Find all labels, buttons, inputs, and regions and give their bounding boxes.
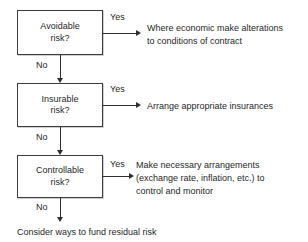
no-connector-insurable — [60, 127, 61, 150]
no-connector-avoidable — [60, 55, 61, 78]
no-arrowhead-controllable — [57, 217, 63, 222]
decision-box-avoidable[interactable]: Avoidable risk? — [17, 10, 103, 55]
no-connector-controllable — [60, 198, 61, 217]
decision-box-insurable-line2: risk? — [50, 105, 69, 116]
yes-label-controllable: Yes — [110, 159, 125, 169]
final-outcome-text: Consider ways to fund residual risk — [17, 227, 157, 237]
outcome-avoidable-line2: to conditions of contract — [147, 35, 283, 48]
outcome-avoidable-line1: Where economic make alterations — [147, 22, 283, 35]
yes-label-avoidable: Yes — [110, 12, 125, 22]
decision-box-controllable-line2: risk? — [50, 177, 69, 188]
decision-box-insurable-line1: Insurable — [41, 94, 78, 105]
flowchart-canvas: Avoidable risk? Yes Where economic make … — [0, 0, 308, 242]
outcome-controllable-line3: control and monitor — [136, 185, 265, 198]
outcome-controllable-line2: (exchange rate, inflation, etc.) to — [136, 172, 265, 185]
outcome-controllable: Make necessary arrangements (exchange ra… — [136, 159, 265, 198]
decision-box-controllable[interactable]: Controllable risk? — [17, 155, 103, 198]
yes-arrowhead-controllable — [129, 173, 134, 179]
outcome-controllable-line1: Make necessary arrangements — [136, 159, 265, 172]
decision-box-insurable[interactable]: Insurable risk? — [17, 83, 103, 127]
yes-connector-controllable — [103, 176, 129, 177]
outcome-insurable-line1: Arrange appropriate insurances — [147, 100, 273, 113]
no-label-insurable: No — [36, 132, 48, 142]
decision-box-controllable-line1: Controllable — [36, 165, 84, 176]
outcome-insurable: Arrange appropriate insurances — [147, 100, 273, 113]
yes-arrowhead-insurable — [136, 102, 141, 108]
decision-box-avoidable-line2: risk? — [50, 33, 69, 44]
yes-connector-insurable — [103, 105, 136, 106]
yes-arrowhead-avoidable — [136, 30, 141, 36]
yes-label-insurable: Yes — [110, 84, 125, 94]
no-label-controllable: No — [36, 202, 48, 212]
decision-box-avoidable-line1: Avoidable — [40, 21, 79, 32]
no-label-avoidable: No — [36, 60, 48, 70]
outcome-avoidable: Where economic make alterations to condi… — [147, 22, 283, 48]
yes-connector-avoidable — [103, 33, 136, 34]
